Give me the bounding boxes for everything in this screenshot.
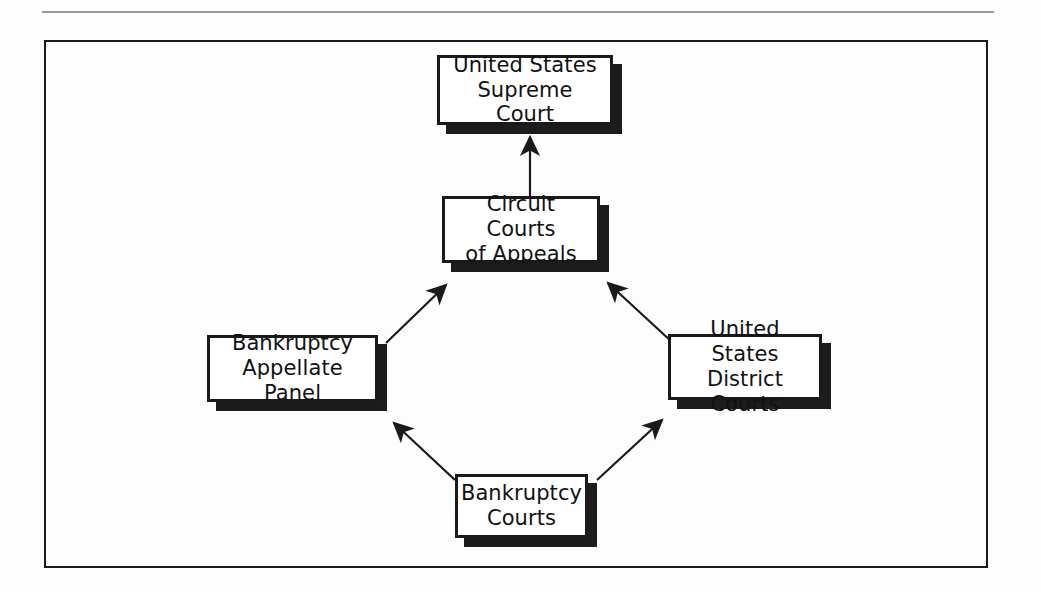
node-label: Circuit Courts of Appeals xyxy=(445,192,597,266)
node-label: Bankruptcy Courts xyxy=(455,481,588,531)
figure-page: United States Supreme Court Circuit Cour… xyxy=(0,0,1041,592)
node-circuit-courts-of-appeals[interactable]: Circuit Courts of Appeals xyxy=(442,196,600,263)
node-face: Circuit Courts of Appeals xyxy=(442,196,600,263)
node-label: Bankruptcy Appellate Panel xyxy=(210,331,375,405)
node-face: Bankruptcy Appellate Panel xyxy=(207,335,378,402)
node-supreme-court[interactable]: United States Supreme Court xyxy=(437,55,613,125)
node-united-states-district-courts[interactable]: United States District Courts xyxy=(668,334,822,400)
top-horizontal-rule xyxy=(42,11,994,13)
node-label: United States Supreme Court xyxy=(440,53,610,127)
node-bankruptcy-appellate-panel[interactable]: Bankruptcy Appellate Panel xyxy=(207,335,378,402)
node-face: United States District Courts xyxy=(668,334,822,400)
node-face: United States Supreme Court xyxy=(437,55,613,125)
node-label: United States District Courts xyxy=(671,317,819,416)
node-face: Bankruptcy Courts xyxy=(455,474,588,538)
node-bankruptcy-courts[interactable]: Bankruptcy Courts xyxy=(455,474,588,538)
